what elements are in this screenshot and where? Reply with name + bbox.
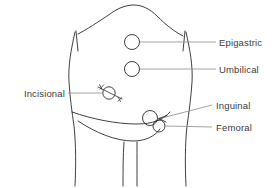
costal-margin-arch [78, 5, 183, 36]
epigastric-site-circle[interactable] [125, 35, 140, 50]
hernia-diagram-canvas: Epigastric Umbilical Incisional Inguinal… [0, 0, 276, 188]
leader-lines-group [68, 42, 216, 127]
incisional-site-circle[interactable] [103, 87, 115, 99]
right-flank-contour [185, 32, 192, 186]
hernia-diagram: Epigastric Umbilical Incisional Inguinal… [0, 0, 276, 188]
inguinal-label: Inguinal [216, 100, 250, 111]
torso-outline-group [69, 5, 192, 186]
umbilical-site-circle[interactable] [125, 62, 140, 77]
groin-fold-line [78, 121, 160, 141]
umbilical-label: Umbilical [219, 64, 259, 75]
femoral-label: Femoral [216, 122, 252, 133]
inguinal-leader-line [158, 105, 212, 119]
epigastric-label: Epigastric [219, 37, 262, 48]
left-inner-thigh-line [123, 142, 124, 186]
hernia-markers-group [98, 35, 165, 133]
inguinal-crease-line [72, 112, 170, 124]
right-rib-tick [183, 31, 185, 51]
incisional-label: Incisional [24, 88, 65, 99]
left-flank-contour [69, 32, 76, 186]
femoral-leader-line [165, 126, 212, 127]
labels-group: Epigastric Umbilical Incisional Inguinal… [24, 37, 262, 133]
